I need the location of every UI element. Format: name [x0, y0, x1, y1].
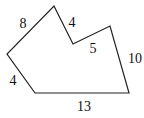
side-label-notch-right: 5 [90, 41, 97, 56]
side-label-bottom: 13 [77, 99, 91, 114]
side-label-bottom-left: 4 [10, 73, 17, 88]
side-label-right: 10 [128, 51, 142, 66]
polygon-diagram: 8 4 5 10 4 13 [0, 0, 144, 118]
side-label-top-left: 8 [20, 16, 27, 31]
side-label-notch-left: 4 [69, 15, 76, 30]
